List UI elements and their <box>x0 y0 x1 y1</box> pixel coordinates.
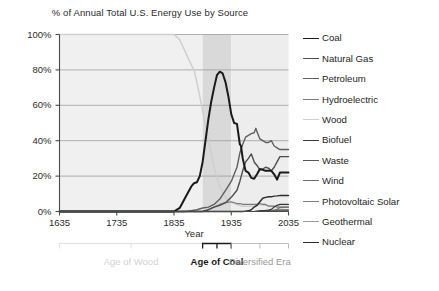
legend-item-petroleum[interactable]: Petroleum <box>303 69 439 89</box>
legend-item-label: Biofuel <box>322 135 351 145</box>
legend-item-label: Hydroelectric <box>322 95 378 105</box>
legend-item-nuclear[interactable]: Nuclear <box>303 232 439 252</box>
legend-item-natural-gas[interactable]: Natural Gas <box>303 48 439 68</box>
chart-figure: % of Annual Total U.S. Energy Use by Sou… <box>0 0 439 291</box>
legend-swatch-icon <box>303 99 319 100</box>
shaded-band-2 <box>231 35 288 212</box>
x-tick-label-0: 1635 <box>38 217 82 228</box>
y-tick-label-0: 0% <box>12 206 52 217</box>
legend-swatch-icon <box>303 242 319 243</box>
x-tick-label-1: 1735 <box>95 217 139 228</box>
legend-swatch-icon <box>303 201 319 202</box>
x-tick-label-4: 2035 <box>267 217 311 228</box>
legend-item-hydroelectric[interactable]: Hydroelectric <box>303 89 439 109</box>
legend-item-geothermal[interactable]: Geothermal <box>303 212 439 232</box>
legend-item-label: Coal <box>322 33 342 43</box>
legend-item-waste[interactable]: Waste <box>303 150 439 170</box>
legend-item-wind[interactable]: Wind <box>303 171 439 191</box>
legend-swatch-icon <box>303 119 319 120</box>
legend-item-label: Geothermal <box>322 217 372 227</box>
y-tick-label-2: 40% <box>12 135 52 146</box>
y-tick-label-5: 100% <box>12 29 52 40</box>
legend-swatch-icon <box>303 140 319 141</box>
legend-item-coal[interactable]: Coal <box>303 28 439 48</box>
legend-swatch-icon <box>303 180 319 181</box>
era-label-age-of-wood: Age of Wood <box>86 256 176 268</box>
legend-item-biofuel[interactable]: Biofuel <box>303 130 439 150</box>
y-tick-label-3: 60% <box>12 99 52 110</box>
shaded-band-0 <box>60 35 203 212</box>
legend-item-label: Photovoltaic Solar <box>322 197 399 207</box>
legend-swatch-icon <box>303 78 319 79</box>
legend-item-label: Natural Gas <box>322 54 373 64</box>
y-tick-label-1: 20% <box>12 170 52 181</box>
x-tick-label-2: 1835 <box>152 217 196 228</box>
legend-item-wood[interactable]: Wood <box>303 110 439 130</box>
y-tick-label-4: 80% <box>12 64 52 75</box>
legend-item-label: Nuclear <box>322 237 355 247</box>
legend-item-label: Wind <box>322 176 344 186</box>
legend-item-label: Waste <box>322 156 349 166</box>
legend-item-label: Wood <box>322 115 347 125</box>
x-tick-label-3: 1935 <box>209 217 253 228</box>
era-label-diversified-era: Diversified Era <box>215 256 305 268</box>
legend-swatch-icon <box>303 38 319 39</box>
x-axis-title: Year <box>172 228 216 239</box>
legend-item-photovoltaic-solar[interactable]: Photovoltaic Solar <box>303 191 439 211</box>
legend-swatch-icon <box>303 160 319 161</box>
legend-item-label: Petroleum <box>322 74 366 84</box>
legend-swatch-icon <box>303 58 319 59</box>
chart-legend: CoalNatural GasPetroleumHydroelectricWoo… <box>303 28 439 252</box>
